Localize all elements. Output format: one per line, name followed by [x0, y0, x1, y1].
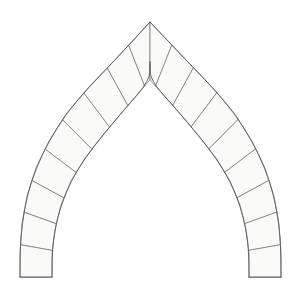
- arch-figure: Pointed (lancet) arch elevation Line dra…: [0, 0, 299, 293]
- pointed-arch-drawing: Pointed (lancet) arch elevation Line dra…: [0, 0, 299, 293]
- voussoir-layer: [20, 22, 281, 277]
